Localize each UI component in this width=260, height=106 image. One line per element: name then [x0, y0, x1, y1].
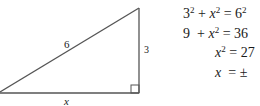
operator: +: [197, 26, 205, 41]
equals: =: [223, 26, 231, 41]
equation-4: x = ±: [215, 66, 247, 80]
equation-2: 9 + x2 = 36: [183, 27, 248, 41]
horizontal-leg-label: x: [64, 95, 69, 106]
term: 6: [235, 6, 242, 21]
equation-3: x2 = 27: [215, 46, 255, 60]
equals: =: [224, 6, 232, 21]
vertical-leg-label: 3: [144, 44, 149, 55]
operator: +: [198, 6, 206, 21]
right-triangle: [0, 0, 150, 106]
equals: =: [228, 65, 236, 80]
hypotenuse-line: [0, 8, 139, 92]
term: ±: [240, 65, 248, 80]
exponent: 2: [242, 5, 247, 15]
equation-1: 32 + x2 = 62: [183, 7, 247, 21]
exponent: 2: [215, 25, 220, 35]
term: 9: [183, 26, 190, 41]
term: 3: [183, 6, 190, 21]
right-angle-marker: [131, 85, 139, 93]
hypotenuse-label: 6: [64, 38, 70, 50]
term: 27: [241, 45, 255, 60]
exponent: 2: [190, 5, 195, 15]
equals: =: [229, 45, 237, 60]
exponent: 2: [216, 5, 221, 15]
variable: x: [215, 65, 221, 80]
exponent: 2: [221, 44, 226, 54]
term: 36: [234, 26, 248, 41]
